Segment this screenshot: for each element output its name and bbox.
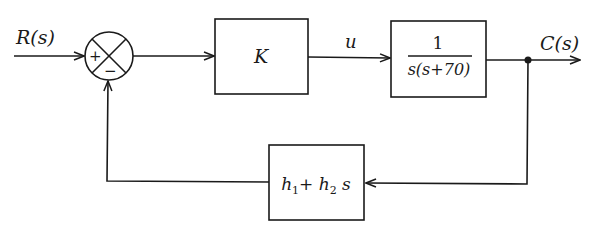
feedback-to-junction-arrow: [107, 81, 269, 182]
control-signal-arrow: [308, 57, 390, 58]
output-label: C(s): [540, 32, 579, 54]
plus-sign: +: [89, 47, 102, 65]
controller-gain-label: K: [253, 45, 270, 67]
feedback-block: h1+ h2 s: [269, 145, 364, 220]
plant-block: 1 s(s+70): [391, 21, 486, 97]
minus-sign: −: [104, 62, 117, 80]
feedback-label: h1+ h2 s: [281, 174, 351, 197]
input-label: R(s): [15, 26, 55, 48]
plant-denominator: s(s+70): [408, 60, 471, 79]
plant-numerator: 1: [433, 33, 444, 53]
block-diagram: R(s) + − K u 1 s(s+70) C(s) h1+ h2 s: [0, 0, 596, 238]
control-signal-label: u: [345, 31, 357, 52]
summing-junction: + −: [85, 32, 133, 80]
controller-block: K: [215, 19, 308, 94]
